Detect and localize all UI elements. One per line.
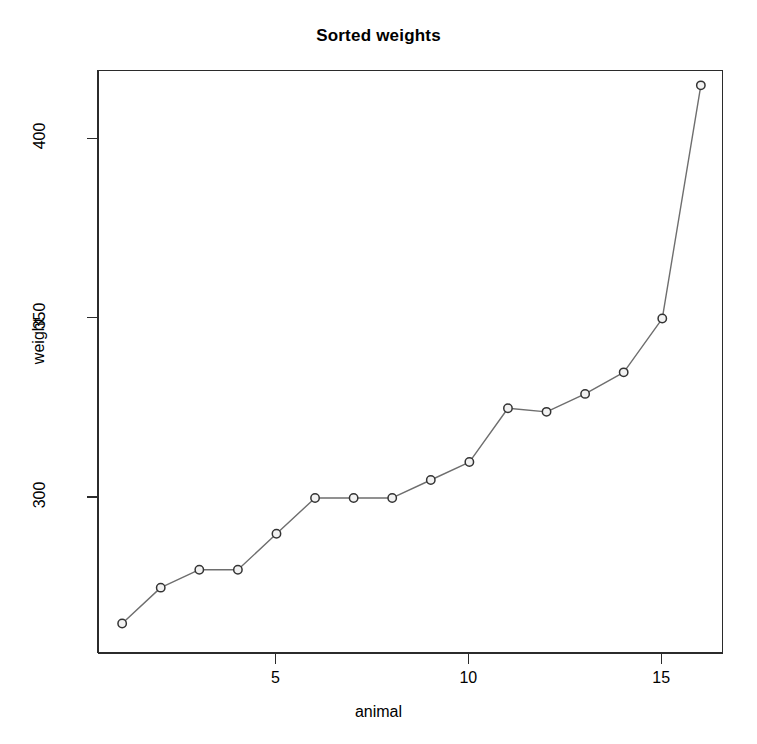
data-point xyxy=(349,494,357,502)
x-axis-tick-label: 10 xyxy=(438,669,498,687)
y-axis-title-text: weight xyxy=(30,318,48,364)
plot-svg xyxy=(99,71,724,654)
y-axis-tick-label-text: 400 xyxy=(31,123,49,150)
y-axis-tick xyxy=(87,317,98,318)
data-point xyxy=(427,476,435,484)
x-axis-tick xyxy=(468,653,469,664)
data-point xyxy=(581,390,589,398)
data-point xyxy=(465,458,473,466)
x-axis-tick-label: 5 xyxy=(245,669,305,687)
x-axis-title: animal xyxy=(0,703,757,721)
data-point xyxy=(234,565,242,573)
y-axis-title: weight xyxy=(0,332,84,350)
plot-area xyxy=(98,70,723,653)
data-point xyxy=(697,81,705,89)
x-axis-tick xyxy=(275,653,276,664)
data-point xyxy=(272,530,280,538)
data-point xyxy=(542,408,550,416)
data-point xyxy=(504,404,512,412)
y-axis-tick xyxy=(87,138,98,139)
y-axis-tick-label-text: 300 xyxy=(31,482,49,509)
data-point xyxy=(118,619,126,627)
y-axis-tick-label: 300 xyxy=(0,486,80,504)
data-line-series-weight xyxy=(122,85,701,623)
data-point xyxy=(619,368,627,376)
y-axis-tick xyxy=(87,496,98,497)
data-point xyxy=(195,565,203,573)
data-point-markers xyxy=(118,81,705,628)
data-point xyxy=(388,494,396,502)
x-axis-tick-label: 15 xyxy=(631,669,691,687)
y-axis-tick-label: 400 xyxy=(0,127,80,145)
data-point xyxy=(311,494,319,502)
data-point xyxy=(157,583,165,591)
x-axis-tick xyxy=(661,653,662,664)
chart-title: Sorted weights xyxy=(0,26,757,46)
data-point xyxy=(658,314,666,322)
chart-figure: Sorted weights 300350400 51015 weight an… xyxy=(0,0,757,744)
